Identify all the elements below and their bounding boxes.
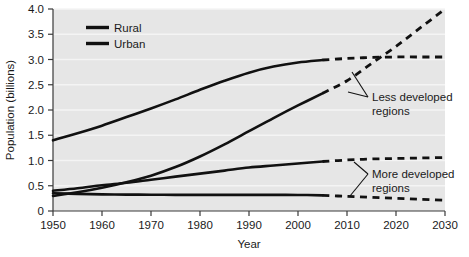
annotation-less-developed-line1: Less developed [372,91,453,103]
x-tick-label-2020: 2020 [383,219,409,231]
y-tick-label-2.0: 2.0 [28,104,44,116]
y-tick-label-4.0: 4.0 [28,3,44,15]
y-axis-title: Population (billions) [4,60,16,161]
x-tick-label-1990: 1990 [236,219,262,231]
x-tick-label-2010: 2010 [334,219,360,231]
x-tick-label-1970: 1970 [138,219,164,231]
annotation-more-developed-line2: regions [372,182,410,194]
y-axis-ticks [48,9,53,211]
legend-label-urban: Urban [114,38,145,50]
x-tick-label-1960: 1960 [89,219,115,231]
y-tick-label-2.5: 2.5 [28,79,44,91]
x-tick-label-1950: 1950 [40,219,66,231]
x-tick-label-2000: 2000 [285,219,311,231]
legend-label-rural: Rural [114,22,141,34]
y-tick-label-1.5: 1.5 [28,129,44,141]
x-tick-label-2030: 2030 [432,219,458,231]
line-more-developed-rural-observed [53,193,323,195]
y-tick-label-0.5: 0.5 [28,180,44,192]
y-tick-label-1.0: 1.0 [28,155,44,167]
annotation-less-developed-line2: regions [372,105,410,117]
y-tick-label-3.0: 3.0 [28,54,44,66]
x-tick-label-1980: 1980 [187,219,213,231]
chart-canvas: 4.0 3.5 3.0 2.5 2.0 1.5 1.0 0.5 0 1950 1… [0,0,469,257]
population-chart-figure: 4.0 3.5 3.0 2.5 2.0 1.5 1.0 0.5 0 1950 1… [0,0,469,257]
y-tick-label-3.5: 3.5 [28,28,44,40]
x-axis-title: Year [237,238,260,250]
y-tick-label-0: 0 [38,205,44,217]
annotation-more-developed-line1: More developed [372,168,454,180]
x-axis-ticks [53,211,445,216]
